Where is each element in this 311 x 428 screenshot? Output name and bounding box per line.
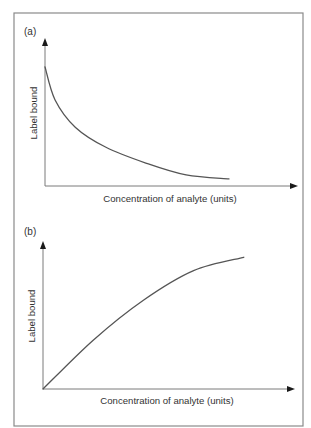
panel-b-x-axis-arrow-icon (287, 386, 295, 392)
panel-a-y-axis-label: Label bound (28, 87, 39, 140)
panel-b-y-axis-label: Label bound (26, 290, 37, 343)
figure: (a) Label bound Concentration of analyte… (0, 0, 311, 428)
panel-b-label: (b) (24, 226, 36, 237)
figure-frame (14, 13, 303, 426)
panel-a-x-axis-label: Concentration of analyte (units) (103, 193, 236, 204)
panel-a: (a) Label bound Concentration of analyte… (24, 26, 298, 204)
panel-b-x-axis-label: Concentration of analyte (units) (100, 395, 233, 406)
panel-b: (b) Label bound Concentration of analyte… (24, 226, 295, 406)
panel-a-x-axis-arrow-icon (290, 183, 298, 189)
panel-a-label: (a) (24, 26, 36, 37)
panel-b-curve (43, 257, 244, 389)
panel-a-curve (45, 67, 229, 179)
panel-b-y-axis-arrow-icon (40, 241, 46, 249)
panel-a-y-axis-arrow-icon (42, 38, 48, 46)
